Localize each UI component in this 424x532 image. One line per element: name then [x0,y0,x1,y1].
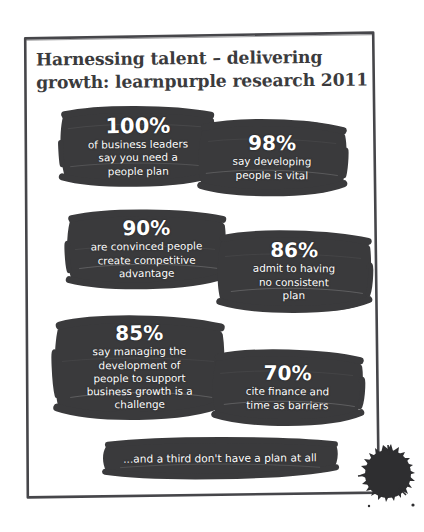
stat-percent: 100% [105,115,170,138]
stat-percent: 70% [264,362,312,384]
footer-text: ...and a third don't have a plan at all [123,451,317,464]
stat-description: of business leaders say you need a peopl… [81,137,196,178]
stat-card-70: 70% cite finance and time as barriers [210,347,366,426]
stat-description: say managing the development of people t… [79,345,199,412]
stat-card-86: 86% admit to having no consistent plan [215,227,374,314]
title-line-1: Harnessing talent – delivering [36,46,356,71]
stat-card-100: 100% of business leaders say you need a … [58,103,219,190]
stat-desc-line: challenge [87,398,193,412]
stat-desc-line: time as barriers [246,398,330,412]
stat-card-85: 85% say managing the development of peop… [52,312,228,421]
infographic-poster: Harnessing talent – delivering growth: l… [0,0,424,532]
stat-desc-line: no consistent [253,276,335,290]
stat-desc-line: say you need a [88,151,188,165]
stat-desc-line: development of [86,358,192,372]
stat-percent: 85% [115,322,163,344]
page-title: Harnessing talent – delivering growth: l… [36,46,356,94]
stat-desc-line: cite finance and [246,385,330,399]
stat-description: say developing people is vital [225,155,318,183]
stat-desc-line: admit to having [253,262,335,276]
stat-desc-line: say developing [233,155,312,169]
stat-description: cite finance and time as barriers [239,385,337,413]
stat-description: admit to having no consistent plan [246,262,343,303]
stat-desc-line: business growth is a [87,385,193,399]
stat-desc-line: people is vital [232,168,311,182]
stat-desc-line: create competitive [91,253,203,267]
stat-description: are convinced people create competitive … [84,240,210,281]
stat-desc-line: say managing the [86,345,192,359]
stat-desc-line: plan [253,289,335,303]
stat-percent: 86% [270,239,318,261]
stat-percent: 98% [248,132,296,154]
title-line-2: growth: learnpurple research 2011 [36,68,356,93]
footer-banner: ...and a third don't have a plan at all [100,436,340,479]
stat-desc-line: people plan [88,164,188,178]
stat-percent: 90% [122,217,170,239]
ink-splat-icon [352,443,424,525]
stat-desc-line: people to support [87,372,193,386]
stat-desc-line: are convinced people [91,240,203,254]
stat-desc-line: advantage [91,267,203,281]
stat-card-98: 98% say developing people is vital [196,116,349,197]
stat-card-90: 90% are convinced people create competit… [65,207,229,290]
